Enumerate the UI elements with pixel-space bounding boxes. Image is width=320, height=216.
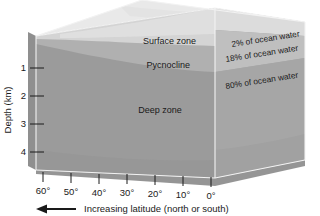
- y-tick-label-4: 4: [21, 146, 26, 157]
- zone-label-deep-zone: Deep zone: [138, 105, 182, 115]
- x-tick-label-40: 40°: [92, 187, 107, 198]
- diagram-canvas: Surface zone Pycnocline Deep zone 2% of …: [0, 0, 320, 216]
- y-tick-label-1: 1: [21, 62, 26, 73]
- x-tick-label-30: 30°: [120, 187, 135, 198]
- x-tick-label-10: 10°: [176, 189, 191, 200]
- x-tick-label-50: 50°: [64, 186, 79, 197]
- zone-label-pycnocline: Pycnocline: [146, 60, 190, 70]
- increasing-latitude-arrow-icon: [36, 205, 76, 214]
- ocean-structure-diagram: Surface zone Pycnocline Deep zone 2% of …: [0, 0, 320, 216]
- x-tick-label-60: 60°: [36, 185, 51, 196]
- x-axis-caption-group: Increasing latitude (north or south): [36, 203, 229, 214]
- y-tick-label-2: 2: [21, 90, 26, 101]
- x-axis-caption: Increasing latitude (north or south): [84, 203, 229, 214]
- x-tick-label-20: 20°: [148, 188, 163, 199]
- x-tick-label-0: 0°: [206, 190, 215, 201]
- zone-label-surface-zone: Surface zone: [143, 36, 196, 46]
- y-axis-label: Depth (km): [2, 87, 13, 134]
- box-front-face: [36, 8, 215, 178]
- box-left-face: [28, 32, 36, 170]
- y-tick-label-3: 3: [21, 118, 26, 129]
